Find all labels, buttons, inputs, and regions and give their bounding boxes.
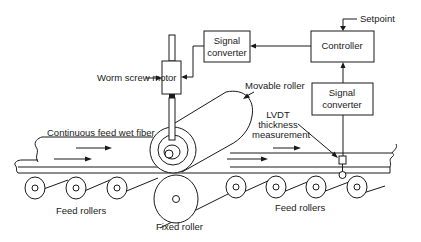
lvdt-label-line3: measurement [252, 129, 310, 140]
lvdt-sensor: LVDT thickness measurement [252, 109, 346, 179]
thickness-control-diagram: Signal converter Controller Signal conve… [0, 0, 421, 242]
signal-converter-right-line1: Signal [329, 87, 355, 98]
signal-converter-top-line1: Signal [214, 35, 240, 46]
fixed-roller-label: Fixed roller [156, 221, 203, 232]
signal-converter-top-block: Signal converter [204, 31, 250, 62]
movable-roller-label: Movable roller [245, 80, 305, 91]
converter-to-motor-arrow [181, 46, 204, 80]
signal-converter-right-line2: converter [322, 99, 362, 110]
feed-rollers-right: Feed rollers [226, 176, 385, 213]
signal-converter-top-line2: converter [207, 47, 247, 58]
signal-converter-right-block: Signal converter [312, 83, 373, 115]
feed-rollers-left: Feed rollers [25, 177, 158, 216]
controller-to-converter-arrow [250, 44, 311, 49]
feed-rollers-left-label: Feed rollers [56, 205, 106, 216]
worm-screw-motor: Worm screw motor [97, 35, 181, 98]
setpoint-input: Setpoint [340, 13, 395, 31]
worm-screw-motor-label: Worm screw motor [97, 72, 177, 83]
continuous-feed-label: Continuous feed wet fiber [47, 127, 155, 138]
controller-block: Controller [311, 31, 374, 62]
setpoint-label: Setpoint [360, 13, 395, 24]
controller-label: Controller [321, 40, 362, 51]
converter-to-controller-arrow [341, 62, 346, 83]
feed-rollers-right-label: Feed rollers [275, 202, 325, 213]
